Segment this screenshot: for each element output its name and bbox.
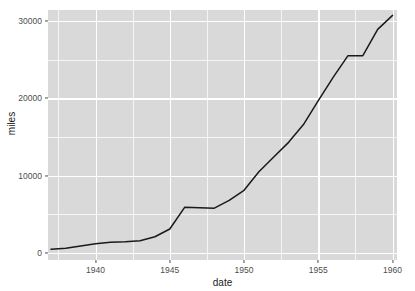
y-tick-mark [45,20,48,21]
x-tick-mark [169,260,170,263]
y-tick-mark [45,252,48,253]
y-tick-label: 0 [0,248,42,258]
x-tick-mark [95,260,96,263]
plot-panel [48,10,397,260]
x-tick-mark [243,260,244,263]
x-tick-label: 1955 [309,265,328,275]
x-tick-label: 1950 [235,265,254,275]
x-axis-title: date [48,277,397,288]
x-tick-label: 1960 [383,265,402,275]
y-tick-label: 10000 [0,171,42,181]
y-tick-label: 20000 [0,93,42,103]
x-tick-mark [392,260,393,263]
x-tick-mark [318,260,319,263]
series-layer [48,10,397,260]
x-tick-label: 1940 [86,265,105,275]
y-tick-label: 30000 [0,16,42,26]
x-tick-label: 1945 [160,265,179,275]
y-tick-mark [45,175,48,176]
chart-container: miles date 01000020000300001940194519501… [0,0,415,291]
line-series-miles [51,15,393,249]
y-tick-mark [45,98,48,99]
